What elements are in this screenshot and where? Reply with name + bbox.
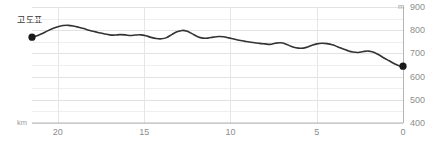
y-axis-tick-800: 800 xyxy=(410,25,425,35)
y-axis-tick-900: 900 xyxy=(410,2,425,12)
elevation-chart-plot xyxy=(0,0,441,147)
y-axis-tick-700: 700 xyxy=(410,48,425,58)
elevation-line xyxy=(32,25,403,66)
x-axis-tick-5: 5 xyxy=(314,127,319,137)
x-axis-tick-15: 15 xyxy=(139,127,149,137)
y-axis-tick-500: 500 xyxy=(410,95,425,105)
minor-gridlines xyxy=(32,20,403,112)
y-axis-tick-600: 600 xyxy=(410,72,425,82)
end-point-marker xyxy=(399,63,406,70)
x-axis-tick-20: 20 xyxy=(53,127,63,137)
start-point-marker xyxy=(28,34,35,41)
x-axis-tick-10: 10 xyxy=(225,127,235,137)
x-axis-tick-0: 0 xyxy=(400,127,405,137)
x-axis-unit-label: km xyxy=(17,118,27,127)
elevation-profile-widget: 고도표 m km 900800700600500400 20151050 xyxy=(0,0,441,147)
y-axis-unit-label: m xyxy=(398,2,404,11)
y-axis-tick-400: 400 xyxy=(410,118,425,128)
